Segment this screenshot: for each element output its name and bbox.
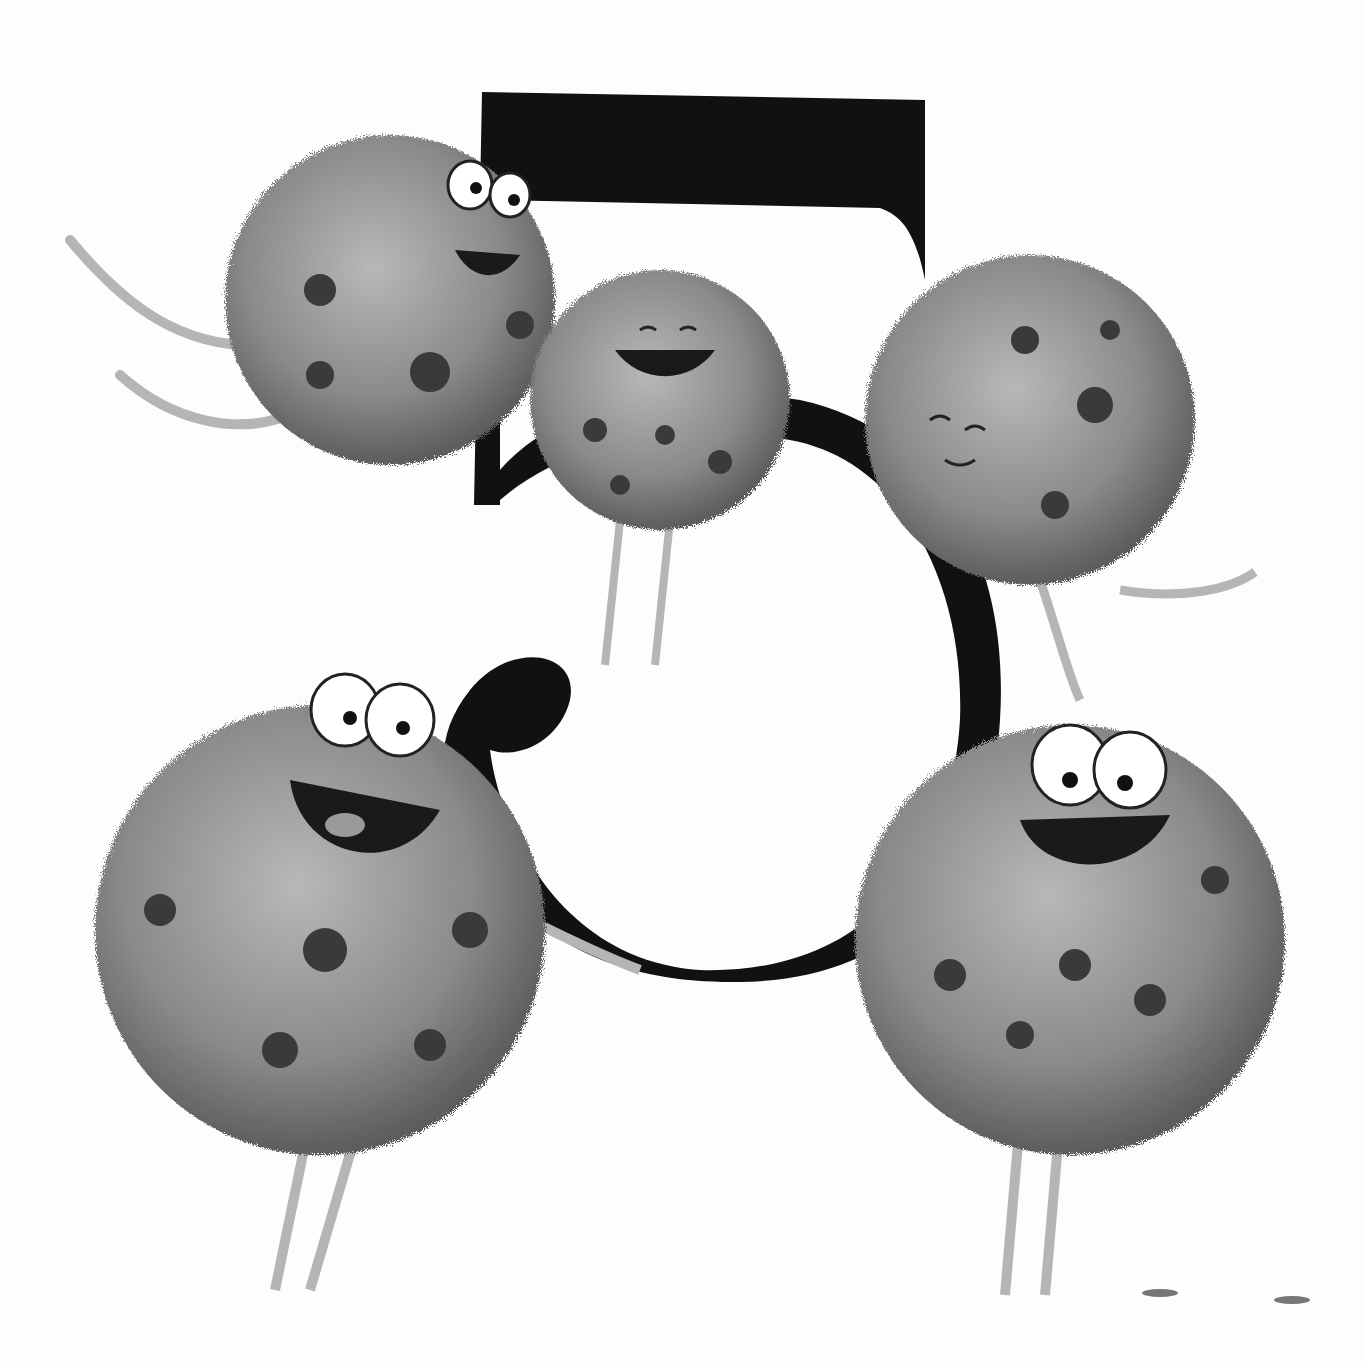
- creature-top-middle: [530, 270, 790, 665]
- creature-bottom-right: [855, 725, 1285, 1295]
- creature-bottom-left: [95, 674, 640, 1290]
- illustration-canvas: [0, 0, 1365, 1364]
- shadow-mark: [1142, 1289, 1178, 1297]
- creature-top-right: [865, 255, 1255, 700]
- creature-top-left: [70, 135, 555, 465]
- shadow-mark: [1274, 1296, 1310, 1304]
- illustration-svg: [0, 0, 1365, 1364]
